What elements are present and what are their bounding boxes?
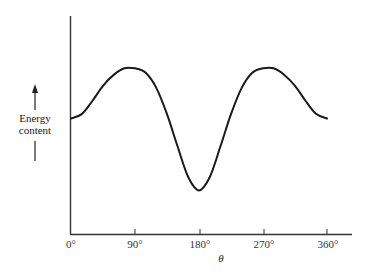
x-ticks [135, 229, 327, 234]
tick-label-180: 180° [190, 238, 211, 250]
y-axis-label-line2: content [19, 124, 51, 136]
energy-curve [71, 68, 327, 191]
tick-label-270: 270° [254, 238, 275, 250]
x-axis-label: θ [218, 252, 224, 264]
y-axis-label-line1: Energy [19, 112, 51, 124]
tick-label-360: 360° [318, 238, 339, 250]
energy-chart: 0° 90° 180° 270° 360° θ Energy content [0, 0, 369, 275]
tick-label-0: 0° [66, 238, 76, 250]
up-arrow-icon [32, 84, 38, 93]
tick-label-90: 90° [127, 238, 142, 250]
y-axis-label-group: Energy content [19, 84, 51, 161]
